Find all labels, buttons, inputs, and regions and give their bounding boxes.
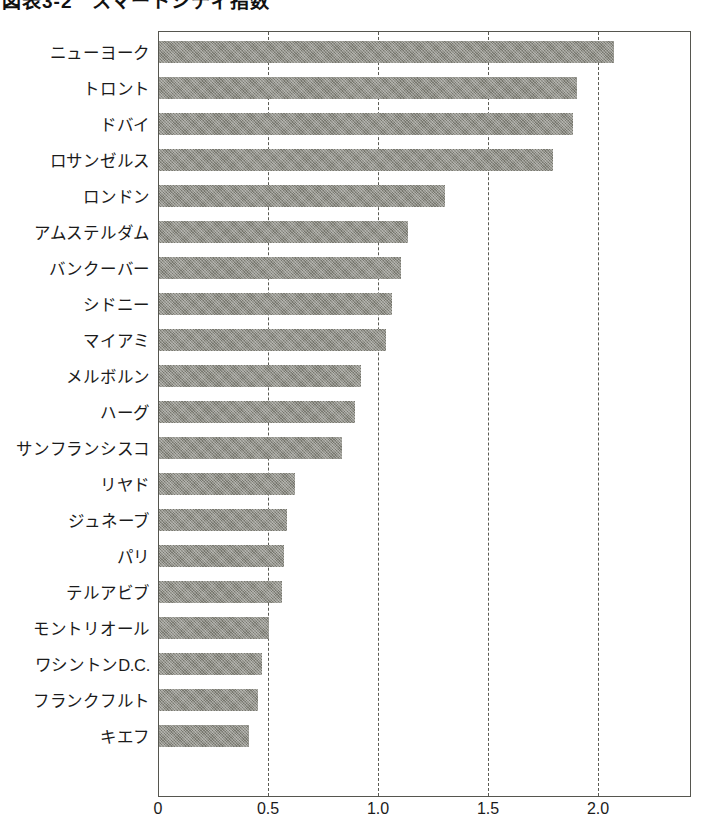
- bar: [159, 329, 386, 351]
- bar: [159, 509, 287, 531]
- bar: [159, 257, 401, 279]
- category-label: パリ: [0, 538, 150, 574]
- chart-title-strip: 図表3-2 スマートシティ指数: [0, 0, 714, 14]
- bar: [159, 149, 553, 171]
- bar: [159, 545, 284, 567]
- bar-row: サンフランシスコ: [0, 430, 714, 466]
- category-label: ロンドン: [0, 178, 150, 214]
- category-label: ワシントンD.C.: [0, 646, 150, 682]
- category-label: テルアビブ: [0, 574, 150, 610]
- page-title: 図表3-2 スマートシティ指数: [2, 0, 270, 13]
- bar-row: ニューヨーク: [0, 34, 714, 70]
- category-label: メルボルン: [0, 358, 150, 394]
- bar-row: ドバイ: [0, 106, 714, 142]
- bar-row: フランクフルト: [0, 682, 714, 718]
- bar-chart: ニューヨークトロントドバイロサンゼルスロンドンアムステルダムバンクーバーシドニー…: [0, 14, 714, 837]
- category-label: フランクフルト: [0, 682, 150, 718]
- bar-row: バンクーバー: [0, 250, 714, 286]
- bar: [159, 689, 258, 711]
- bar: [159, 185, 445, 207]
- category-label: ドバイ: [0, 106, 150, 142]
- category-label: トロント: [0, 70, 150, 106]
- category-label: バンクーバー: [0, 250, 150, 286]
- bar: [159, 473, 295, 495]
- x-axis: 00.51.01.52.0: [0, 800, 714, 830]
- bar-row: トロント: [0, 70, 714, 106]
- category-label: モントリオール: [0, 610, 150, 646]
- x-tick-label: 2.0: [587, 800, 609, 818]
- bar-row: テルアビブ: [0, 574, 714, 610]
- bar: [159, 617, 269, 639]
- bar-row: リヤド: [0, 466, 714, 502]
- x-tick-label: 1.5: [477, 800, 499, 818]
- bar-row: ロサンゼルス: [0, 142, 714, 178]
- bar-row: マイアミ: [0, 322, 714, 358]
- category-label: ロサンゼルス: [0, 142, 150, 178]
- category-label: マイアミ: [0, 322, 150, 358]
- bar: [159, 41, 614, 63]
- bar: [159, 725, 249, 747]
- bar-row: キエフ: [0, 718, 714, 754]
- category-label: サンフランシスコ: [0, 430, 150, 466]
- x-tick-label: 0.5: [257, 800, 279, 818]
- bar: [159, 401, 355, 423]
- bar-row: シドニー: [0, 286, 714, 322]
- bar: [159, 365, 361, 387]
- bar: [159, 113, 573, 135]
- bar-row: ハーグ: [0, 394, 714, 430]
- x-tick-label: 1.0: [367, 800, 389, 818]
- category-label: シドニー: [0, 286, 150, 322]
- bar: [159, 653, 262, 675]
- category-label: ハーグ: [0, 394, 150, 430]
- bar: [159, 221, 408, 243]
- bar-rows: ニューヨークトロントドバイロサンゼルスロンドンアムステルダムバンクーバーシドニー…: [0, 31, 714, 797]
- bar-row: ワシントンD.C.: [0, 646, 714, 682]
- category-label: ニューヨーク: [0, 34, 150, 70]
- bar: [159, 581, 282, 603]
- bar: [159, 293, 392, 315]
- category-label: ジュネーブ: [0, 502, 150, 538]
- bar-row: ロンドン: [0, 178, 714, 214]
- category-label: リヤド: [0, 466, 150, 502]
- bar: [159, 77, 577, 99]
- bar-row: メルボルン: [0, 358, 714, 394]
- bar: [159, 437, 342, 459]
- bar-row: ジュネーブ: [0, 502, 714, 538]
- category-label: キエフ: [0, 718, 150, 754]
- bar-row: パリ: [0, 538, 714, 574]
- category-label: アムステルダム: [0, 214, 150, 250]
- bar-row: モントリオール: [0, 610, 714, 646]
- bar-row: アムステルダム: [0, 214, 714, 250]
- x-tick-label: 0: [154, 800, 163, 818]
